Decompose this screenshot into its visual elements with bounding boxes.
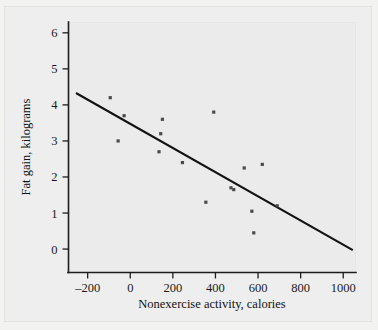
data-point (252, 231, 255, 234)
data-point (250, 210, 253, 213)
x-tick-label: 400 (206, 281, 225, 295)
x-tick-label: 800 (291, 281, 310, 295)
y-axis-ticks (63, 33, 69, 249)
data-point (122, 114, 125, 117)
data-point (261, 163, 264, 166)
data-point (243, 166, 246, 169)
y-tick-label: 5 (51, 62, 57, 76)
y-tick-label: 4 (51, 98, 58, 112)
data-point (204, 201, 207, 204)
y-axis-title: Fat gain, kilograms (19, 98, 33, 195)
data-points (109, 96, 279, 234)
data-point (232, 188, 235, 191)
data-point (117, 139, 120, 142)
data-point (181, 161, 184, 164)
data-point (157, 150, 160, 153)
y-tick-label: 0 (51, 243, 57, 257)
regression-line (76, 93, 353, 250)
data-point (159, 132, 162, 135)
x-axis-tick-labels: –20002004006008001000 (74, 281, 356, 295)
axes (68, 22, 356, 273)
x-tick-label: 1000 (331, 281, 356, 295)
x-axis-ticks (88, 273, 344, 279)
x-tick-label: 600 (249, 281, 268, 295)
x-tick-label: 200 (163, 281, 182, 295)
regression-line-segment (76, 93, 353, 250)
data-point (161, 118, 164, 121)
data-point (276, 204, 279, 207)
y-axis-tick-labels: 0123456 (51, 26, 58, 256)
y-tick-label: 6 (51, 26, 57, 40)
y-tick-label: 3 (51, 134, 57, 148)
data-point (212, 111, 215, 114)
x-axis-title: Nonexercise activity, calories (138, 297, 286, 311)
scatter-plot-figure: –20002004006008001000 0123456 Nonexercis… (0, 0, 378, 330)
y-tick-label: 2 (51, 170, 57, 184)
x-tick-label: –200 (74, 281, 100, 295)
data-point (109, 96, 112, 99)
data-point (229, 186, 232, 189)
y-tick-label: 1 (51, 207, 57, 221)
chart-canvas: –20002004006008001000 0123456 Nonexercis… (0, 0, 378, 330)
x-tick-label: 0 (127, 281, 133, 295)
